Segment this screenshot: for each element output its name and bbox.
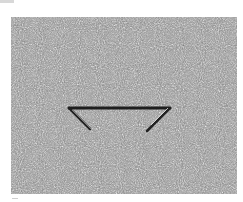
wire-shape [11,17,237,194]
top-left-mark [0,0,14,3]
bottom-left-mark [12,198,18,199]
speckled-photo [11,17,237,194]
